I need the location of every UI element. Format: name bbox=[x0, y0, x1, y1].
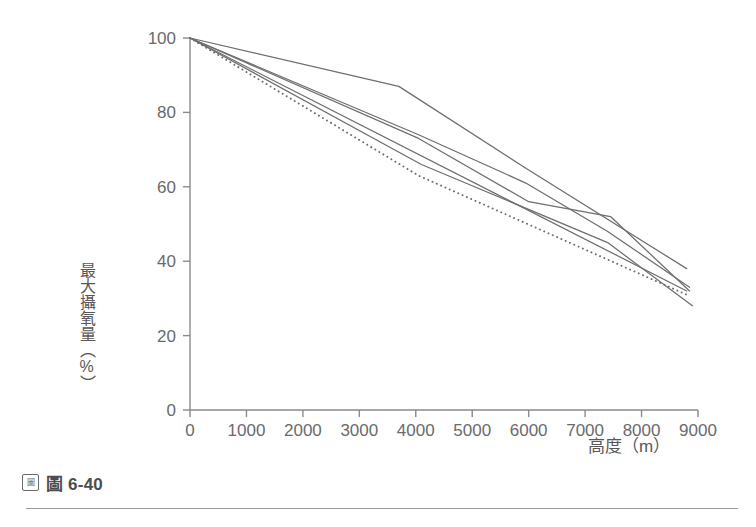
x-tick-label: 5000 bbox=[453, 421, 491, 440]
y-tick-label: 60 bbox=[157, 178, 176, 197]
figure-caption: 圖 圖 6-40 bbox=[22, 470, 103, 495]
y-tick-label: 80 bbox=[157, 103, 176, 122]
y-axis-title: 最大攝氧量（%） bbox=[74, 262, 96, 391]
figure-glyph-icon: 圖 bbox=[22, 474, 39, 491]
x-axis-title: 高度（m） bbox=[588, 432, 670, 457]
series-layer bbox=[190, 38, 692, 306]
y-tick-label: 0 bbox=[167, 401, 176, 420]
x-tick-label: 4000 bbox=[397, 421, 435, 440]
x-tick-label: 2000 bbox=[284, 421, 322, 440]
y-tick-label: 20 bbox=[157, 327, 176, 346]
x-tick-label: 3000 bbox=[340, 421, 378, 440]
y-tick-label: 40 bbox=[157, 252, 176, 271]
caption-divider bbox=[26, 508, 738, 509]
x-tick-label: 0 bbox=[185, 421, 194, 440]
x-tick-label: 1000 bbox=[228, 421, 266, 440]
chart-plot: 0204060801000100020003000400050006000700… bbox=[0, 0, 756, 470]
x-tick-label: 6000 bbox=[510, 421, 548, 440]
series-line bbox=[190, 38, 692, 306]
series-line bbox=[190, 38, 690, 287]
x-tick-label: 9000 bbox=[679, 421, 717, 440]
series-line bbox=[190, 38, 687, 291]
figure-root: 0204060801000100020003000400050006000700… bbox=[0, 0, 756, 527]
y-tick-label: 100 bbox=[148, 29, 176, 48]
figure-caption-label: 圖 6-40 bbox=[46, 470, 103, 495]
